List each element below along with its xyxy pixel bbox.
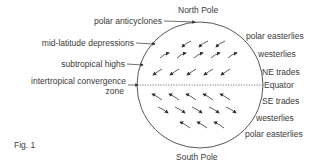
pointer-polar-anticyclones (164, 21, 195, 22)
label-westerlies-north: westerlies (258, 49, 296, 59)
label-subtropical-highs: subtropical highs (61, 59, 125, 69)
label-westerlies-south: westerlies (256, 113, 294, 123)
label-itcz-line1: intertropical convergence (31, 76, 126, 86)
label-polar-easterlies-north: polar easterlies (246, 31, 304, 41)
south-pole-label: South Pole (176, 152, 218, 162)
figure-caption: Fig. 1 (14, 140, 35, 150)
label-itcz-line2: zone (106, 86, 124, 96)
label-ne-trades: NE trades (262, 67, 300, 77)
pointer-mid-latitude (136, 43, 155, 44)
label-polar-easterlies-south: polar easterlies (245, 129, 303, 139)
arrows-north-westerlies (160, 53, 237, 58)
label-polar-anticyclones: polar anticyclones (94, 16, 162, 26)
label-mid-latitude-depressions: mid-latitude depressions (42, 38, 134, 48)
arrows-south-polar-easterlies (180, 122, 224, 128)
label-se-trades: SE trades (262, 96, 299, 106)
arrows-ne-trades (153, 69, 230, 75)
north-pole-label: North Pole (178, 5, 218, 15)
arrows-south-westerlies (158, 107, 236, 113)
arrows-se-trades (152, 94, 230, 100)
label-equator: Equator (264, 80, 294, 90)
arrows-north-polar-easterlies (182, 41, 225, 47)
